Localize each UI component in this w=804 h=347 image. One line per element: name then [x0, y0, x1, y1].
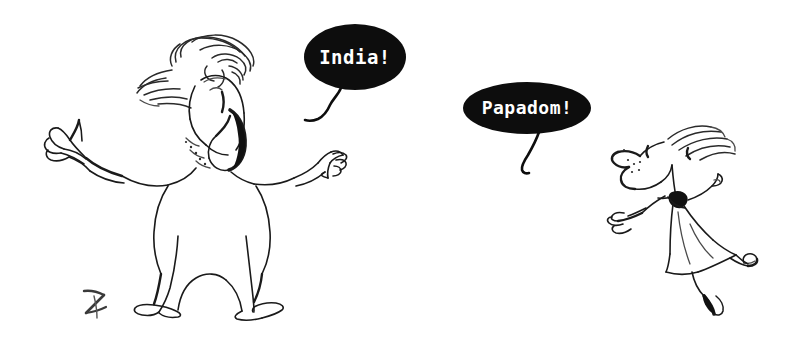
cartoon-illustration: India! Papadom!	[0, 0, 804, 347]
bubble-india-text: India!	[319, 46, 391, 68]
illustration-canvas: India! Papadom!	[0, 0, 804, 347]
bubble-papadom-text: Papadom!	[482, 97, 573, 118]
